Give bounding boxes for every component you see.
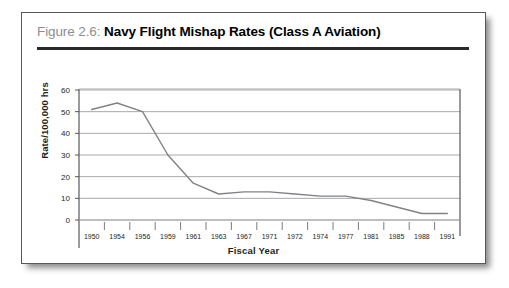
x-tick-label: 1956 [135,233,151,240]
x-tick-label: 1959 [160,233,176,240]
x-axis-title: Fiscal Year [22,245,485,256]
x-tick-label: 1991 [440,233,456,240]
x-tick-label: 1974 [313,233,329,240]
x-tick-label: 1981 [363,233,379,240]
x-tick-label: 1950 [84,233,100,240]
figure-caption: Figure 2.6: Navy Flight Mishap Rates (Cl… [37,22,469,45]
y-tick-label: 40 [61,129,70,138]
y-tick-label: 50 [61,108,70,117]
figure-card: Figure 2.6: Navy Flight Mishap Rates (Cl… [21,12,486,264]
y-tick-label: 0 [66,216,71,225]
line-chart: 0102030405060195019541956195919611963196… [22,53,485,248]
x-tick-label: 1967 [236,233,252,240]
y-tick-label: 10 [61,194,70,203]
x-tick-label: 1963 [211,233,227,240]
x-tick-label: 1971 [262,233,278,240]
y-tick-label: 30 [61,151,70,160]
page-title: Navy Flight Mishap Rates (Class A Aviati… [100,24,380,39]
x-tick-label: 1985 [389,233,405,240]
figure-number: Figure 2.6: [37,24,100,39]
x-tick-label: 1977 [338,233,354,240]
x-tick-label: 1954 [109,233,125,240]
data-series-line [92,103,448,214]
y-tick-label: 60 [61,86,70,95]
x-tick-label: 1988 [414,233,430,240]
chart-container: Rate/100,000 hrs 01020304050601950195419… [22,53,485,264]
title-divider [37,47,469,50]
x-tick-label: 1961 [186,233,202,240]
y-tick-label: 20 [61,173,70,182]
screenshot-root: Figure 2.6: Navy Flight Mishap Rates (Cl… [0,0,509,288]
x-tick-label: 1972 [287,233,303,240]
